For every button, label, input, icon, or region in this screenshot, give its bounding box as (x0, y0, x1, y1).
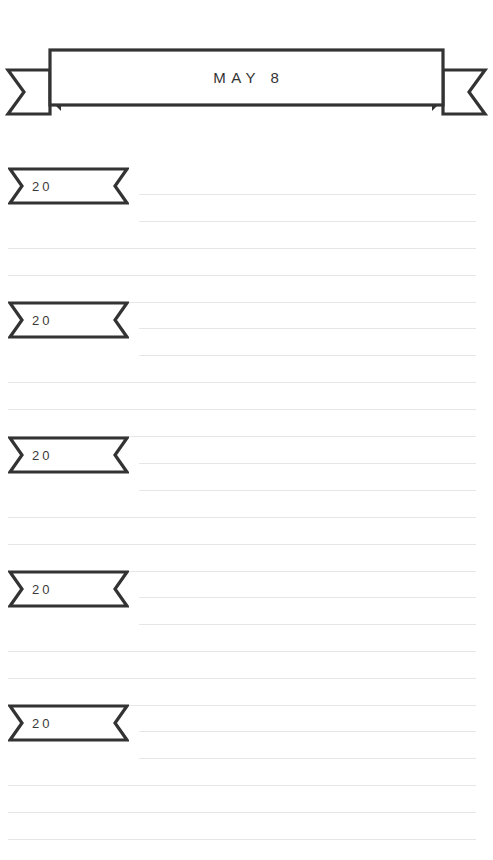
writing-line[interactable] (8, 651, 476, 652)
year-tag (8, 704, 129, 742)
writing-line[interactable] (139, 490, 476, 491)
writing-line[interactable] (8, 275, 476, 276)
writing-line[interactable] (8, 785, 476, 786)
writing-line[interactable] (139, 463, 476, 464)
ribbon-left-tail (8, 70, 50, 114)
ribbon-right-tail (443, 70, 485, 114)
writing-line[interactable] (8, 409, 476, 410)
ribbon-band (50, 50, 443, 105)
journal-page: MAY 8 20 20 (0, 0, 493, 860)
writing-line[interactable] (139, 758, 476, 759)
year-tag (8, 167, 129, 205)
writing-line[interactable] (139, 624, 476, 625)
entry-block: 20 (0, 297, 493, 433)
writing-line[interactable] (8, 678, 476, 679)
writing-line[interactable] (8, 248, 476, 249)
ribbon-banner (0, 48, 493, 118)
entry-block: 20 (0, 700, 493, 836)
writing-line[interactable] (8, 839, 476, 840)
year-tag (8, 570, 129, 608)
entry-block: 20 (0, 163, 493, 299)
writing-line[interactable] (8, 517, 476, 518)
year-tag (8, 436, 129, 474)
writing-line[interactable] (139, 731, 476, 732)
writing-line[interactable] (8, 812, 476, 813)
writing-line[interactable] (139, 221, 476, 222)
entry-block: 20 (0, 566, 493, 702)
writing-line[interactable] (139, 328, 476, 329)
writing-line[interactable] (8, 382, 476, 383)
writing-line[interactable] (139, 597, 476, 598)
entry-block: 20 (0, 432, 493, 568)
year-tag (8, 301, 129, 339)
writing-line[interactable] (139, 355, 476, 356)
writing-line[interactable] (8, 544, 476, 545)
writing-line[interactable] (139, 194, 476, 195)
